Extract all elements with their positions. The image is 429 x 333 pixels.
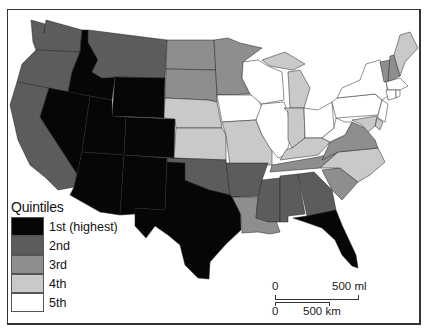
legend-swatch <box>11 274 44 293</box>
legend-item-q3: 3rd <box>11 255 118 274</box>
scale-km-end: 500 km <box>303 305 341 317</box>
legend-label: 1st (highest) <box>49 220 118 234</box>
state-NM <box>120 155 167 215</box>
map-legend: Quintiles 1st (highest) 2nd 3rd 4th 5th <box>11 199 118 312</box>
state-KS <box>174 128 226 160</box>
legend-swatch <box>11 217 44 236</box>
legend-title: Quintiles <box>11 199 118 215</box>
scale-km-start: 0 <box>272 305 278 317</box>
legend-item-q1: 1st (highest) <box>11 217 118 236</box>
state-MT <box>88 30 167 78</box>
legend-label: 2nd <box>49 239 70 253</box>
legend-item-q4: 4th <box>11 274 118 293</box>
legend-swatch <box>11 236 44 255</box>
state-IA <box>217 95 262 122</box>
state-FL <box>293 210 358 268</box>
state-SD <box>165 69 217 102</box>
scale-miles-start: 0 <box>272 280 278 292</box>
legend-swatch <box>11 255 44 274</box>
state-WA <box>31 20 82 52</box>
legend-label: 4th <box>49 277 66 291</box>
state-CO <box>124 117 175 158</box>
state-WY <box>112 77 165 118</box>
scale-miles-end: 500 ml <box>332 280 367 292</box>
state-RI <box>396 90 400 98</box>
legend-swatch <box>11 293 44 312</box>
scale-line-km <box>275 302 330 303</box>
state-ND <box>166 40 216 70</box>
state-NY <box>337 60 388 100</box>
legend-label: 5th <box>49 296 66 310</box>
scale-bar: 0 500 ml 0 500 km <box>270 280 380 320</box>
state-CT <box>386 90 396 100</box>
legend-item-q5: 5th <box>11 293 118 312</box>
legend-label: 3rd <box>49 258 67 272</box>
scale-line-miles <box>275 299 359 300</box>
legend-item-q2: 2nd <box>11 236 118 255</box>
